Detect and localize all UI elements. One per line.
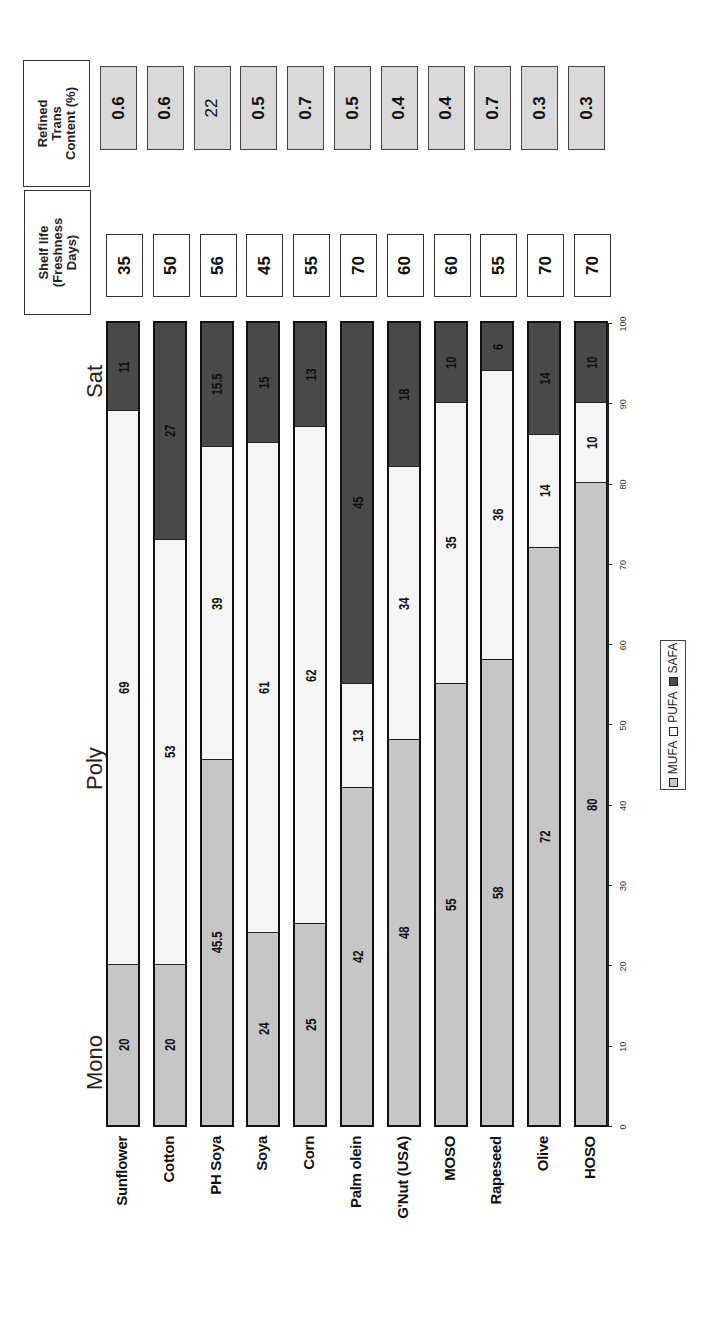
bar-segment-safa: 27	[155, 323, 185, 540]
bar-segment-safa: 6	[482, 323, 512, 371]
bar-segment-safa: 14	[529, 323, 559, 435]
category-label: PH Soya	[207, 1136, 224, 1284]
segment-value-label: 45.5	[208, 932, 225, 954]
x-axis-tick-label: 20	[618, 961, 628, 971]
category-label: Soya	[253, 1136, 270, 1284]
bar-segment-pufa: 14	[529, 435, 559, 547]
x-axis-tick-label: 90	[618, 399, 628, 409]
x-axis-tick-label: 80	[618, 480, 628, 490]
x-axis-tick	[607, 403, 612, 404]
segment-value-label: 53	[161, 745, 178, 758]
segment-value-label: 62	[302, 669, 319, 682]
legend-swatch-mufa	[669, 778, 678, 787]
legend-label-pufa: PUFA	[666, 692, 680, 723]
category-label: G'Nut (USA)	[394, 1136, 411, 1284]
trans-content-box: 22	[194, 66, 231, 150]
stacked-bar: 58366	[480, 321, 514, 1127]
segment-value-label: 72	[536, 830, 553, 843]
x-axis-tick	[607, 885, 612, 886]
category-label: MOSO	[441, 1136, 458, 1284]
bar-segment-pufa: 39	[202, 447, 232, 760]
bar-segment-pufa: 62	[295, 427, 325, 924]
bar-segment-mufa: 20	[108, 965, 138, 1125]
category-label: Cotton	[160, 1136, 177, 1284]
trans-content-box: 0.4	[381, 66, 418, 150]
shelf-life-box: 60	[434, 234, 471, 297]
shelf-life-box: 45	[246, 234, 283, 297]
stacked-bar: 45.53915.5	[200, 321, 234, 1127]
segment-value-label: 15.5	[208, 374, 225, 396]
trans-content-box: 0.4	[428, 66, 465, 150]
segment-value-label: 14	[536, 372, 553, 385]
bar-segment-mufa: 58	[482, 660, 512, 1125]
x-axis-tick	[607, 484, 612, 485]
segment-value-label: 20	[115, 1039, 132, 1052]
segment-value-label: 39	[208, 597, 225, 610]
segment-value-label: 14	[536, 485, 553, 498]
stacked-bar: 721414	[527, 321, 561, 1127]
segment-value-label: 35	[442, 537, 459, 550]
shelf-life-box: 70	[574, 234, 611, 297]
category-label: HOSO	[581, 1136, 598, 1284]
shelf-life-box: 70	[527, 234, 564, 297]
segment-value-label: 55	[442, 898, 459, 911]
group-label-poly: Poly	[82, 747, 108, 790]
bar-segment-safa: 18	[389, 323, 419, 467]
shelf-life-box: 55	[480, 234, 517, 297]
shelf-life-box: 35	[106, 234, 143, 297]
bar-segment-safa: 10	[436, 323, 466, 403]
stacked-bar: 483418	[387, 321, 421, 1127]
segment-value-label: 48	[395, 926, 412, 939]
group-label-sat: Sat	[82, 365, 108, 398]
trans-header-line: Refined	[36, 100, 50, 148]
shelf-life-box: 56	[200, 234, 237, 297]
segment-value-label: 15	[255, 376, 272, 389]
category-label: Corn	[300, 1136, 317, 1284]
trans-header-line: Trans	[50, 106, 64, 141]
bar-segment-safa: 10	[576, 323, 606, 403]
bar-segment-pufa: 36	[482, 371, 512, 660]
stacked-bar: 205327	[153, 321, 187, 1127]
bar-segment-mufa: 42	[342, 788, 372, 1125]
segment-value-label: 13	[349, 729, 366, 742]
bar-segment-mufa: 72	[529, 548, 559, 1125]
category-label: Rapeseed	[487, 1136, 504, 1284]
x-axis-tick-label: 40	[618, 801, 628, 811]
trans-content-box: 0.7	[474, 66, 511, 150]
stacked-bar: 801010	[574, 321, 608, 1127]
category-label: Olive	[534, 1136, 551, 1284]
x-axis-tick-label: 70	[618, 560, 628, 570]
shelf-header-line: Shelf life	[37, 225, 51, 279]
segment-value-label: 61	[255, 681, 272, 694]
segment-value-label: 20	[161, 1039, 178, 1052]
category-label: Palm olein	[347, 1136, 364, 1284]
segment-value-label: 69	[115, 681, 132, 694]
segment-value-label: 13	[302, 368, 319, 381]
bar-segment-pufa: 10	[576, 403, 606, 483]
group-label-mono: Mono	[82, 1035, 108, 1090]
legend-swatch-safa	[669, 678, 678, 687]
bar-segment-mufa: 20	[155, 965, 185, 1125]
x-axis-tick	[607, 323, 612, 324]
stacked-bar: 256213	[293, 321, 327, 1127]
x-axis-tick	[607, 1126, 612, 1127]
x-axis-tick	[607, 1046, 612, 1047]
bar-segment-mufa: 80	[576, 483, 606, 1125]
trans-content-box: 0.6	[147, 66, 184, 150]
segment-value-label: 18	[395, 388, 412, 401]
category-label: Sunflower	[113, 1136, 130, 1284]
trans-content-box: 0.7	[287, 66, 324, 150]
trans-content-box: 0.3	[521, 66, 558, 150]
bar-segment-pufa: 61	[248, 443, 278, 932]
bar-segment-safa: 15.5	[202, 323, 232, 447]
x-axis-tick	[607, 965, 612, 966]
segment-value-label: 10	[583, 437, 600, 450]
shelf-header-line: (Freshness	[51, 218, 65, 287]
x-axis-tick-label: 10	[618, 1042, 628, 1052]
bar-segment-mufa: 45.5	[202, 760, 232, 1125]
bar-segment-safa: 45	[342, 323, 372, 684]
bar-segment-safa: 13	[295, 323, 325, 427]
legend-swatch-pufa	[669, 727, 678, 736]
segment-value-label: 6	[489, 343, 506, 349]
bar-segment-pufa: 35	[436, 403, 466, 684]
